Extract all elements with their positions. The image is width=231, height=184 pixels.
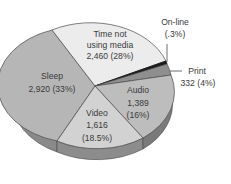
label-online-line2: (.3%) [165,29,186,39]
label-audio-line3: (16%) [127,110,150,120]
label-print-line2: 332 (4%) [181,78,216,88]
label-time-line3: 2,460 (28%) [87,51,134,61]
label-sleep-line2: 2,920 (33%) [29,84,76,94]
label-sleep-line1: Sleep [41,71,63,81]
label-print-line1: Print [188,66,206,76]
label-online-line1: On-line [161,17,189,27]
label-audio-line1: Audio [127,85,149,95]
label-video-line1: Video [86,108,108,118]
pie-chart: Time not using media 2,460 (28%) On-line… [0,0,231,184]
label-video-line2: 1,616 [86,120,108,130]
label-time-line2: using media [87,40,134,50]
label-time-line1: Time not [93,29,127,39]
label-video-line3: (18.5%) [82,133,112,143]
label-audio-line2: 1,389 [127,98,149,108]
